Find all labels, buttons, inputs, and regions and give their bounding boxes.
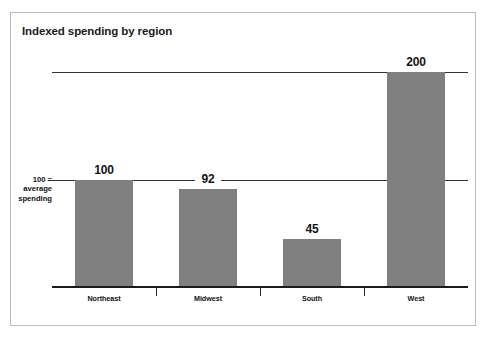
- bar-midwest: [179, 189, 237, 288]
- bar-west: [387, 72, 445, 288]
- chart-figure: Indexed spending by region 100 92 45 200…: [0, 0, 489, 340]
- y-axis-annotation-line-1: 100 =: [8, 175, 52, 185]
- y-axis-annotation-line-3: spending: [8, 194, 52, 204]
- category-label-midwest: Midwest: [172, 294, 244, 303]
- category-label-south: South: [276, 294, 348, 303]
- bar-south: [283, 239, 341, 288]
- y-axis-annotation: 100 = average spending: [8, 175, 52, 204]
- category-label-west: West: [380, 294, 452, 303]
- plot-area: 100 92 45 200 Northeast Midwest South We…: [52, 48, 468, 288]
- y-axis-annotation-line-2: average: [8, 184, 52, 194]
- category-label-northeast: Northeast: [68, 294, 140, 303]
- bar-northeast: [75, 180, 133, 288]
- axis-tick-3: [364, 288, 365, 296]
- bar-value-south: 45: [283, 222, 341, 236]
- bar-value-west: 200: [387, 55, 445, 69]
- axis-tick-2: [260, 288, 261, 296]
- bar-value-northeast: 100: [75, 163, 133, 177]
- axis-tick-1: [156, 288, 157, 296]
- bar-value-midwest: 92: [179, 172, 237, 186]
- page-title: Indexed spending by region: [22, 25, 172, 37]
